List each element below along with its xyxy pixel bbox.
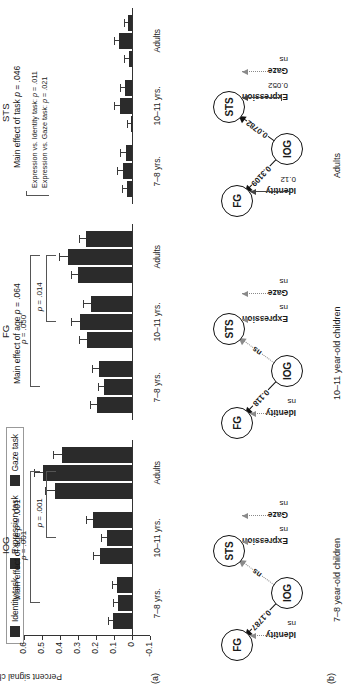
bar bbox=[120, 98, 132, 114]
bar bbox=[118, 595, 132, 611]
diagram-node-sts: STS bbox=[213, 535, 245, 567]
contrast-text: Expression vs. Identity task: p = .011 bbox=[30, 71, 39, 188]
bar bbox=[80, 314, 132, 330]
input-cap bbox=[281, 94, 282, 101]
subpanel-title: FG bbox=[0, 325, 11, 338]
error-bar bbox=[79, 238, 86, 239]
input-arrow-icon bbox=[242, 317, 248, 323]
error-bar-cap bbox=[90, 401, 91, 409]
x-axis-group-label: 7–8 yrs. bbox=[152, 139, 162, 204]
figure: (a) Identity taskExpression taskGaze tas… bbox=[0, 0, 353, 688]
error-bar bbox=[79, 339, 87, 340]
error-bar-cap bbox=[120, 149, 121, 157]
main-effect-text: Main effect of task p = .046 bbox=[12, 66, 22, 168]
diagram-node-iog: IOG bbox=[271, 133, 303, 165]
y-axis-tick: -0.1 bbox=[144, 642, 154, 664]
x-axis-group-label: 7–8 yrs. bbox=[152, 571, 162, 636]
chart-subpanel-fg: 7–8 yrs.10–11 yrs.Adultsp = .050p = .014 bbox=[24, 224, 150, 420]
diagram-node-iog: IOG bbox=[271, 577, 303, 609]
bar bbox=[68, 249, 132, 265]
p-symbol: p bbox=[40, 99, 49, 103]
p-symbol: p bbox=[12, 92, 22, 97]
input-arrow-icon bbox=[250, 411, 256, 417]
significance-bracket bbox=[46, 255, 56, 322]
bar bbox=[55, 483, 132, 499]
input-task-value: 0.052 bbox=[268, 81, 288, 90]
y-axis-tick-mark bbox=[60, 636, 61, 640]
error-bar-cap bbox=[101, 534, 102, 542]
bar bbox=[128, 15, 132, 31]
error-bar-cap bbox=[79, 336, 80, 344]
task-input-arrow bbox=[250, 635, 290, 636]
error-bar-cap bbox=[53, 451, 54, 459]
input-arrow-icon bbox=[250, 633, 256, 639]
contrast-bracket bbox=[26, 191, 49, 196]
bar bbox=[129, 51, 132, 67]
error-bar-cap bbox=[98, 383, 99, 391]
task-input-arrow bbox=[250, 191, 290, 192]
input-line bbox=[242, 515, 282, 516]
input-cap bbox=[289, 188, 290, 195]
bar bbox=[104, 379, 132, 395]
input-arrow-icon bbox=[250, 189, 256, 195]
input-line bbox=[242, 71, 282, 72]
error-bar bbox=[83, 303, 91, 304]
baseline-axis bbox=[132, 440, 133, 636]
input-task-value: ns bbox=[288, 619, 296, 628]
bar bbox=[43, 465, 132, 481]
p-symbol: p bbox=[35, 307, 44, 311]
diagram-1: 0.118nsFGSTSIOGIdentitynsExpressionnsGaz… bbox=[176, 236, 353, 458]
error-bar-cap bbox=[120, 84, 121, 92]
main-effect-text: Main effect of age p = .001 bbox=[12, 499, 22, 600]
input-arrow-icon bbox=[242, 69, 248, 75]
error-bar-cap bbox=[122, 185, 123, 193]
task-input-arrow bbox=[242, 541, 282, 542]
error-bar-cap bbox=[124, 19, 125, 27]
legend-item: Gaze task bbox=[10, 434, 20, 486]
significance-bracket bbox=[30, 255, 40, 388]
input-task-value: ns bbox=[280, 55, 288, 64]
input-arrow-icon bbox=[242, 513, 248, 519]
y-axis-tick-mark bbox=[78, 636, 79, 640]
error-bar-cap bbox=[93, 552, 94, 560]
error-bar-cap bbox=[71, 271, 72, 279]
x-axis-group-label: 10–11 yrs. bbox=[152, 73, 162, 138]
edge-label: 0.3109 bbox=[249, 163, 274, 188]
diagram-node-sts: STS bbox=[213, 313, 245, 345]
error-bar bbox=[71, 321, 80, 322]
x-axis-group-label: Adults bbox=[152, 224, 162, 289]
edge-label: 0.0782 bbox=[244, 118, 271, 141]
x-axis-group-label: Adults bbox=[152, 440, 162, 505]
input-arrow-icon bbox=[242, 539, 248, 545]
diagram-0: 0.1787nsFGSTSIOGIdentitynsExpressionnsGa… bbox=[176, 458, 353, 680]
p-symbol: p bbox=[30, 93, 39, 97]
error-bar-cap bbox=[117, 167, 118, 175]
x-axis-group-label: 7–8 yrs. bbox=[152, 355, 162, 420]
bar bbox=[123, 163, 132, 179]
figure-canvas: (a) Identity taskExpression taskGaze tas… bbox=[0, 0, 353, 688]
y-axis-tick-mark bbox=[150, 636, 151, 640]
x-axis-group-label: Adults bbox=[152, 8, 162, 73]
task-input-arrow bbox=[242, 71, 282, 72]
significance-p-value: p = .014 bbox=[35, 282, 44, 311]
diagram-caption: Adults bbox=[332, 153, 342, 178]
input-task-value: ns bbox=[280, 499, 288, 508]
bar bbox=[107, 530, 132, 546]
error-bar-cap bbox=[112, 581, 113, 589]
bar bbox=[126, 145, 132, 161]
diagram-caption: 7–8 year-old children bbox=[332, 538, 342, 622]
bar bbox=[97, 397, 132, 413]
bar bbox=[100, 548, 132, 564]
bar bbox=[78, 267, 132, 283]
input-line bbox=[250, 191, 290, 192]
error-bar-cap bbox=[92, 365, 93, 373]
task-input-arrow bbox=[242, 97, 282, 98]
input-line bbox=[250, 413, 290, 414]
input-line bbox=[242, 319, 282, 320]
error-bar-cap bbox=[71, 318, 72, 326]
y-axis-tick-mark bbox=[42, 636, 43, 640]
bar bbox=[131, 116, 132, 132]
y-axis-tick-mark bbox=[96, 636, 97, 640]
p-symbol: p bbox=[12, 525, 22, 530]
error-bar bbox=[86, 519, 93, 520]
